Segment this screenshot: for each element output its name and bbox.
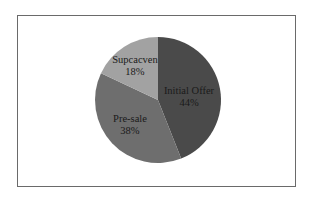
slice-label-value: 44% <box>164 97 214 109</box>
slice-label-value: 18% <box>112 66 157 78</box>
slice-label-name: Initial Offer <box>164 85 214 97</box>
pie-chart <box>0 0 316 202</box>
slice-label-name: Pre-sale <box>113 113 147 125</box>
slice-label: Initial Offer44% <box>164 85 214 109</box>
slice-label-name: Supcacven <box>112 54 157 66</box>
slice-label: Pre-sale38% <box>113 113 147 137</box>
slice-label-value: 38% <box>113 125 147 137</box>
slice-label: Supcacven18% <box>112 54 157 78</box>
